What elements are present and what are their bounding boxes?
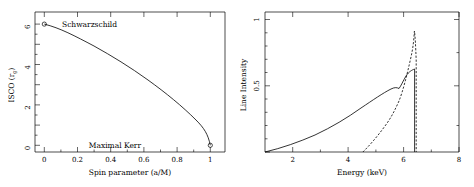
profile-x-ticklabels: 2 4 6 8 — [290, 156, 461, 164]
xtick-3: 0.6 — [138, 156, 150, 164]
profile-y-ticklabels: 0.5 1 — [253, 17, 261, 91]
profile-curves — [265, 31, 416, 152]
panel-line-profile: 2 4 6 8 0.5 1 Energy (keV) Line Intensit… — [237, 0, 474, 187]
xtick-4: 0.8 — [172, 156, 183, 164]
xtick-1: 0.2 — [72, 156, 83, 164]
profile-ytick-1: 1 — [253, 17, 261, 21]
profile-xtick-2: 6 — [401, 156, 406, 164]
xtick-5: 1 — [208, 156, 212, 164]
figure-two-panel: Schwarzschild Maximal Kerr 0 0.2 0.4 0.6… — [0, 0, 474, 187]
ytick-3: 6 — [24, 24, 32, 29]
narrow-line-dashed-curve — [363, 31, 416, 152]
maximal-kerr-label: Maximal Kerr — [89, 141, 142, 150]
profile-ytick-0: 0.5 — [253, 80, 261, 91]
isco-y-ticks — [35, 24, 40, 145]
ytick-0: 0 — [24, 146, 32, 150]
isco-yaxis-label: ISCO (rg) — [7, 67, 18, 102]
profile-xtick-1: 4 — [346, 156, 351, 164]
xtick-2: 0.4 — [105, 156, 117, 164]
ytick-1: 2 — [24, 105, 32, 109]
ytick-2: 4 — [24, 64, 32, 69]
profile-xtick-0: 2 — [290, 156, 294, 164]
isco-axes — [35, 12, 225, 152]
line-profile-svg: 2 4 6 8 0.5 1 Energy (keV) Line Intensit… — [237, 0, 474, 187]
profile-plot-frame — [265, 12, 459, 152]
profile-xtick-3: 8 — [457, 156, 461, 164]
xtick-0: 0 — [42, 156, 46, 164]
isco-x-ticklabels: 0 0.2 0.4 0.6 0.8 1 — [42, 156, 212, 164]
isco-xaxis-label: Spin parameter (a/M) — [89, 168, 171, 177]
isco-curve — [44, 24, 210, 145]
isco-plot-svg: Schwarzschild Maximal Kerr 0 0.2 0.4 0.6… — [0, 0, 237, 187]
isco-yaxis-label-tail: ) — [7, 67, 16, 70]
isco-radius-curve — [44, 24, 210, 145]
isco-annotations: Schwarzschild Maximal Kerr — [62, 20, 141, 150]
profile-y-ticks — [265, 20, 459, 153]
profile-axes — [265, 12, 459, 152]
svg-text:ISCO (rg): ISCO (rg) — [7, 67, 18, 102]
panel-isco-vs-spin: Schwarzschild Maximal Kerr 0 0.2 0.4 0.6… — [0, 0, 237, 187]
profile-yaxis-label: Line Intensity — [239, 58, 248, 111]
schwarzschild-label: Schwarzschild — [62, 20, 117, 29]
profile-xaxis-label: Energy (keV) — [337, 168, 387, 177]
isco-yaxis-label-main: ISCO (r — [7, 73, 16, 102]
isco-plot-frame — [35, 12, 225, 152]
broad-line-solid-curve — [265, 69, 415, 152]
profile-x-ticks — [293, 12, 459, 152]
isco-markers — [42, 22, 212, 147]
isco-y-ticklabels: 0 2 4 6 — [24, 24, 32, 150]
